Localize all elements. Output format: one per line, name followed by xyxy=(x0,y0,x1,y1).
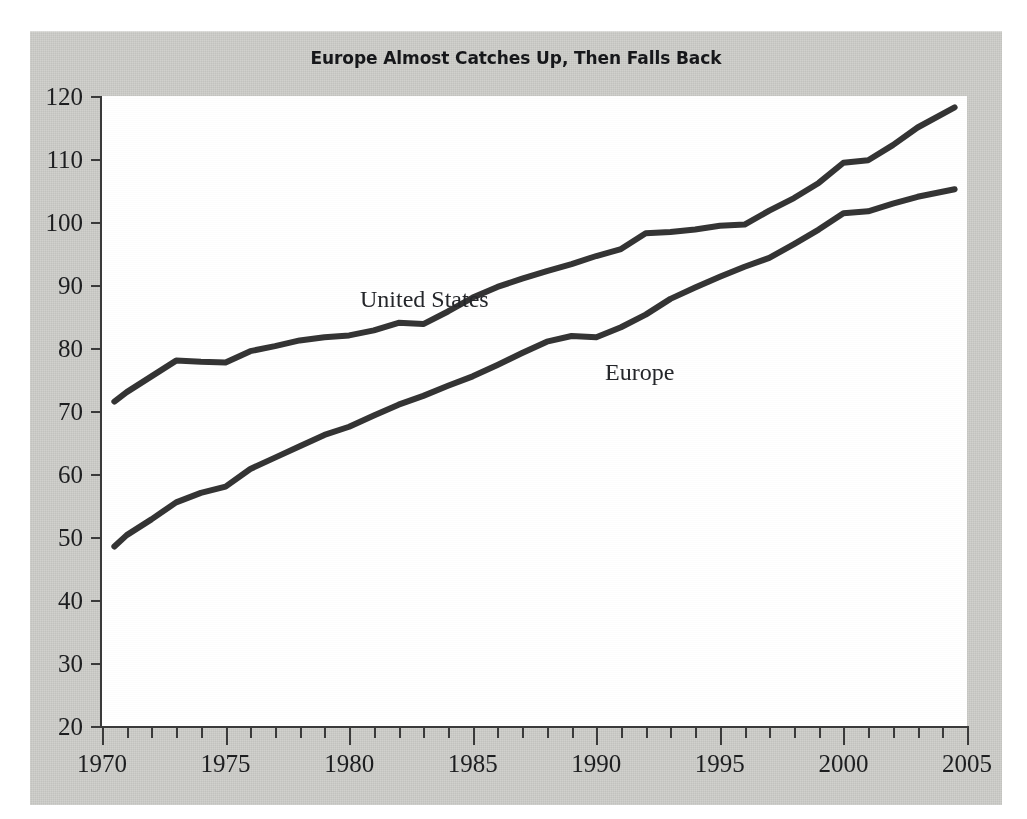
x-tick-minor xyxy=(399,726,401,738)
x-tick-minor xyxy=(300,726,302,738)
x-tick-major xyxy=(226,726,228,745)
x-tick-minor xyxy=(868,726,870,738)
x-tick-label: 1975 xyxy=(201,750,251,778)
x-tick-minor xyxy=(745,726,747,738)
x-tick-minor xyxy=(151,726,153,738)
y-tick-label: 60 xyxy=(58,461,83,489)
x-tick-minor xyxy=(695,726,697,738)
y-tick: 120 xyxy=(91,96,102,98)
x-tick-label: 1980 xyxy=(324,750,374,778)
y-tick-label: 120 xyxy=(46,83,84,111)
y-tick: 70 xyxy=(91,411,102,413)
chart-title: Europe Almost Catches Up, Then Falls Bac… xyxy=(30,48,1002,68)
x-tick-label: 1970 xyxy=(77,750,127,778)
line-united-states xyxy=(114,107,954,401)
figure-page: Europe Almost Catches Up, Then Falls Bac… xyxy=(0,0,1027,819)
x-tick-minor xyxy=(275,726,277,738)
x-tick-minor xyxy=(522,726,524,738)
x-tick-minor xyxy=(250,726,252,738)
x-tick-major xyxy=(720,726,722,745)
x-tick-major xyxy=(473,726,475,745)
x-tick-major xyxy=(349,726,351,745)
y-tick-label: 70 xyxy=(58,398,83,426)
y-tick-label: 50 xyxy=(58,524,83,552)
y-tick-label: 80 xyxy=(58,335,83,363)
x-tick-minor xyxy=(127,726,129,738)
line-europe xyxy=(114,189,954,546)
y-tick-label: 20 xyxy=(58,713,83,741)
x-tick-label: 2005 xyxy=(942,750,992,778)
x-tick-minor xyxy=(572,726,574,738)
series-lines xyxy=(102,96,967,726)
y-tick: 60 xyxy=(91,474,102,476)
x-tick-minor xyxy=(201,726,203,738)
series-label-united-states: United States xyxy=(360,286,489,312)
x-tick-minor xyxy=(448,726,450,738)
y-tick: 80 xyxy=(91,348,102,350)
x-tick-minor xyxy=(646,726,648,738)
x-tick-minor xyxy=(942,726,944,738)
x-tick-minor xyxy=(547,726,549,738)
plot-area: United States Europe 2030405060708090100… xyxy=(100,96,967,728)
y-tick: 110 xyxy=(91,159,102,161)
x-tick-minor xyxy=(374,726,376,738)
x-tick-label: 1995 xyxy=(695,750,745,778)
y-tick-label: 110 xyxy=(46,146,83,174)
x-tick-minor xyxy=(819,726,821,738)
y-tick: 50 xyxy=(91,537,102,539)
series-label-europe: Europe xyxy=(605,359,674,385)
x-tick-minor xyxy=(794,726,796,738)
x-tick-label: 1985 xyxy=(448,750,498,778)
figure-panel: Europe Almost Catches Up, Then Falls Bac… xyxy=(30,31,1002,805)
x-tick-minor xyxy=(918,726,920,738)
x-tick-major xyxy=(843,726,845,745)
x-tick-label: 1990 xyxy=(571,750,621,778)
x-tick-minor xyxy=(176,726,178,738)
x-tick-minor xyxy=(497,726,499,738)
x-tick-major xyxy=(967,726,969,745)
x-tick-minor xyxy=(423,726,425,738)
y-tick: 90 xyxy=(91,285,102,287)
x-tick-minor xyxy=(769,726,771,738)
x-tick-major xyxy=(102,726,104,745)
y-tick-label: 40 xyxy=(58,587,83,615)
y-tick: 30 xyxy=(91,663,102,665)
y-tick-label: 100 xyxy=(46,209,84,237)
x-tick-major xyxy=(596,726,598,745)
y-tick: 40 xyxy=(91,600,102,602)
x-tick-minor xyxy=(324,726,326,738)
y-tick: 100 xyxy=(91,222,102,224)
y-tick: 20 xyxy=(91,726,102,728)
x-tick-minor xyxy=(893,726,895,738)
x-tick-minor xyxy=(621,726,623,738)
y-tick-label: 90 xyxy=(58,272,83,300)
y-tick-label: 30 xyxy=(58,650,83,678)
x-tick-label: 2000 xyxy=(818,750,868,778)
x-tick-minor xyxy=(670,726,672,738)
